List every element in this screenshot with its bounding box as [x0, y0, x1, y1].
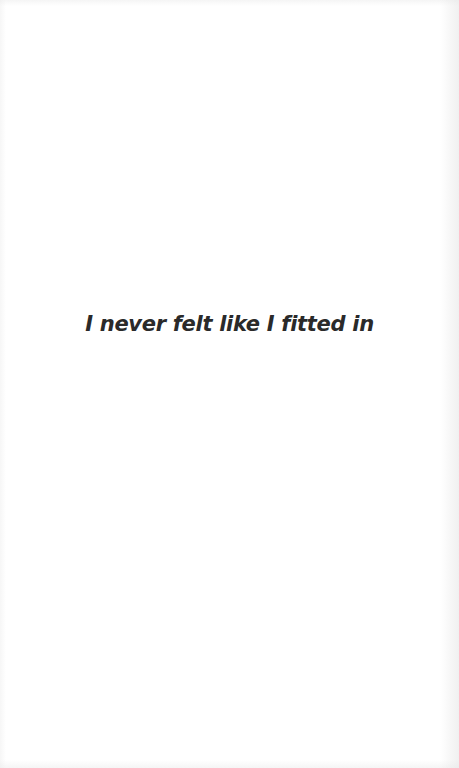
book-page: I never felt like I fitted in: [0, 0, 459, 768]
centered-quote-text: I never felt like I fitted in: [0, 306, 459, 342]
